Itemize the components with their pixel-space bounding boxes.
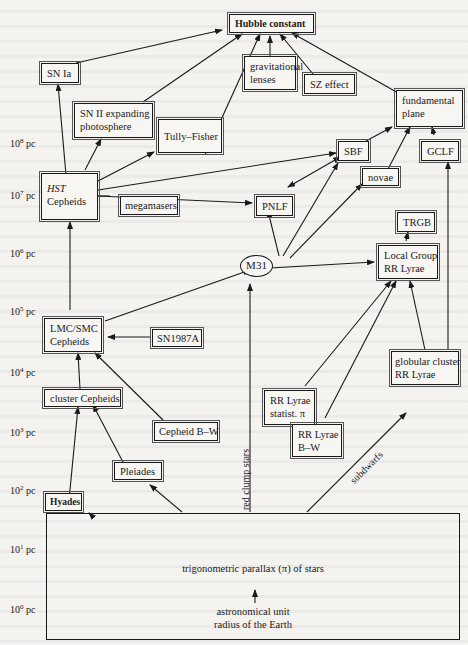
node-novae: novae xyxy=(362,168,399,186)
node-rr-lyrae-statist: RR Lyraestatist. π xyxy=(264,390,315,425)
scale-tick-10e5: 105 pc xyxy=(10,305,35,317)
edge-label-red-clump-stars: red clump stars xyxy=(240,449,251,510)
node-rr-lyrae-bw: RR LyraeB–W xyxy=(292,424,342,457)
node-fundamental-plane: fundamentalplane xyxy=(396,90,463,127)
node-m31: M31 xyxy=(240,255,273,277)
node-astronomical-unit: astronomical unitradius of the Earth xyxy=(46,605,460,631)
scale-tick-10e7: 107 pc xyxy=(10,189,35,201)
node-gclf: GCLF xyxy=(421,141,459,161)
node-hubble-constant: Hubble constant xyxy=(229,14,314,33)
node-sbf: SBF xyxy=(338,141,369,161)
scale-tick-10e6: 106 pc xyxy=(10,247,35,259)
scale-tick-10e1: 101 pc xyxy=(10,543,35,555)
node-sz-effect: SZ effect xyxy=(304,74,355,94)
node-hst-cepheids: HSTCepheids xyxy=(41,173,98,220)
node-local-group-rr-lyrae: Local GroupRR Lyrae xyxy=(378,245,438,279)
node-globular-cluster-rr-lyrae: globular clusterRR Lyrae xyxy=(391,351,459,385)
node-cepheid-bw: Cepheid B–W xyxy=(154,422,218,441)
node-trgb: TRGB xyxy=(397,212,435,232)
node-hyades: Hyades xyxy=(45,493,82,511)
scale-tick-10e2: 102 pc xyxy=(10,484,35,496)
node-megamasers: megamasers xyxy=(120,196,178,215)
node-sn-ii-photosphere: SN II expandingphotosphere xyxy=(74,103,153,138)
node-parallax: trigonometric parallax (π) of stars xyxy=(46,563,460,574)
scale-tick-10e8: 108 pc xyxy=(10,137,35,149)
scale-tick-10e0: 100 pc xyxy=(10,603,35,615)
node-sn1987a: SN1987A xyxy=(152,329,202,347)
node-sn-ia: SN Ia xyxy=(41,63,79,83)
node-lmc-smc-cepheids: LMC/SMCCepheids xyxy=(44,318,102,352)
node-cluster-cepheids: cluster Cepheids xyxy=(44,389,121,407)
node-pnlf: PNLF xyxy=(256,196,293,216)
node-tully-fisher: Tully–Fisher xyxy=(158,119,222,153)
node-gravitational-lenses: gravitationallenses xyxy=(244,56,296,90)
node-pleiades: Pleiades xyxy=(114,462,162,480)
scale-tick-10e4: 104 pc xyxy=(10,366,35,378)
scale-tick-10e3: 103 pc xyxy=(10,426,35,438)
